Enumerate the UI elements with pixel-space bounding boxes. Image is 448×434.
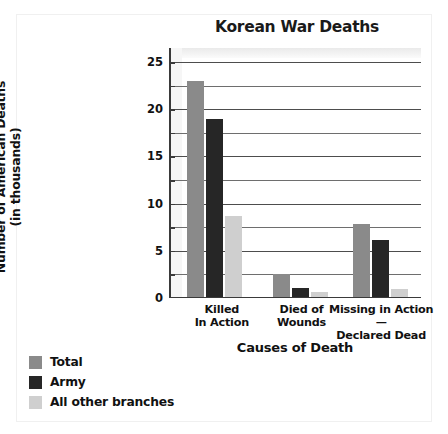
chart-figure: Korean War Deaths Number of American Dea… (0, 0, 448, 434)
bar (225, 216, 242, 298)
legend-item[interactable]: Total (29, 352, 229, 372)
legend-swatch-icon (29, 356, 42, 369)
y-tick-label: 5 (137, 244, 163, 258)
y-tick-label: 0 (137, 291, 163, 305)
chart-legend: TotalArmyAll other branches (29, 352, 229, 412)
legend-item[interactable]: All other branches (29, 392, 229, 412)
legend-label: Total (50, 355, 83, 369)
gridline (169, 62, 421, 63)
legend-label: Army (50, 375, 86, 389)
plot-area (169, 48, 421, 298)
x-tick-label-line: Declared Dead (325, 329, 437, 342)
x-tick-label: Missing in Action—Declared Dead (325, 303, 437, 342)
legend-item[interactable]: Army (29, 372, 229, 392)
bar (353, 224, 370, 298)
gridline (169, 109, 421, 110)
chart-title: Korean War Deaths (168, 18, 426, 36)
y-tick-label: 20 (137, 102, 163, 116)
legend-swatch-icon (29, 396, 42, 409)
bar (273, 274, 290, 298)
plot-canvas (169, 48, 421, 298)
x-tick-label-line: Missing in Action— (325, 303, 437, 329)
y-tick-label: 25 (137, 55, 163, 69)
bar (187, 81, 204, 298)
y-axis-ticks: 0510152025 (135, 48, 163, 298)
y-axis-title-line1: Number of American Deaths (0, 52, 9, 302)
y-tick-label: 15 (137, 149, 163, 163)
y-tick-label: 10 (137, 197, 163, 211)
gridline (169, 86, 421, 87)
bar (372, 240, 389, 298)
y-axis-line (169, 48, 171, 298)
bar (206, 119, 223, 298)
x-axis-line (169, 297, 421, 299)
legend-swatch-icon (29, 376, 42, 389)
legend-label: All other branches (50, 395, 174, 409)
